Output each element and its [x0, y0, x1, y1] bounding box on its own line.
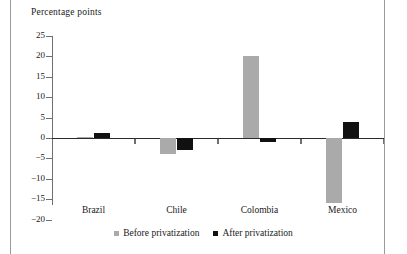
y-axis-tick	[46, 158, 52, 159]
y-axis-tick	[46, 220, 52, 221]
legend-swatch-before-icon	[114, 231, 119, 236]
y-axis-tick-label: 5	[1, 113, 45, 122]
y-axis-tick-label: 0	[1, 133, 45, 142]
x-axis-category-label: Mexico	[293, 205, 393, 215]
bar-colombia-after	[260, 138, 276, 142]
y-axis-tick-label: −15	[1, 194, 45, 203]
y-axis-tick-labels: 2520151050−5−10−15−20	[0, 0, 45, 254]
y-axis-tick	[46, 199, 52, 200]
bar-chile-before	[160, 138, 176, 154]
y-axis-tick	[46, 77, 52, 78]
figure-panel: Percentage points 2520151050−5−10−15−20 …	[0, 0, 407, 254]
y-axis-tick	[46, 138, 52, 139]
y-axis-tick	[46, 118, 52, 119]
bar-brazil-before	[77, 137, 93, 139]
bar-colombia-before	[243, 56, 259, 138]
x-axis-tick	[135, 139, 136, 144]
legend-item-before: Before privatization	[114, 228, 199, 238]
y-axis-tick-label: −5	[1, 153, 45, 162]
y-axis-tick	[46, 56, 52, 57]
bar-mexico-before	[326, 138, 342, 203]
legend-item-after: After privatization	[213, 228, 292, 238]
x-axis-tick	[383, 139, 384, 144]
y-axis-tick	[46, 97, 52, 98]
legend-label-before: Before privatization	[123, 228, 199, 238]
x-axis-tick	[218, 139, 219, 144]
y-axis-tick	[46, 179, 52, 180]
y-axis-tick	[46, 36, 52, 37]
y-axis-tick-label: 10	[1, 92, 45, 101]
y-axis-tick-label: 25	[1, 31, 45, 40]
y-axis-tick-label: −10	[1, 174, 45, 183]
x-axis-tick	[301, 139, 302, 144]
legend-swatch-after-icon	[213, 231, 218, 236]
chart-legend: Before privatization After privatization	[0, 228, 407, 238]
right-frame-rule	[384, 0, 385, 254]
y-axis-tick-label: −20	[1, 215, 45, 224]
y-axis-tick-label: 15	[1, 72, 45, 81]
bar-chile-after	[177, 138, 193, 150]
bar-mexico-after	[343, 122, 359, 138]
legend-label-after: After privatization	[222, 228, 292, 238]
y-axis-tick-label: 20	[1, 51, 45, 60]
bar-brazil-after	[94, 133, 110, 138]
